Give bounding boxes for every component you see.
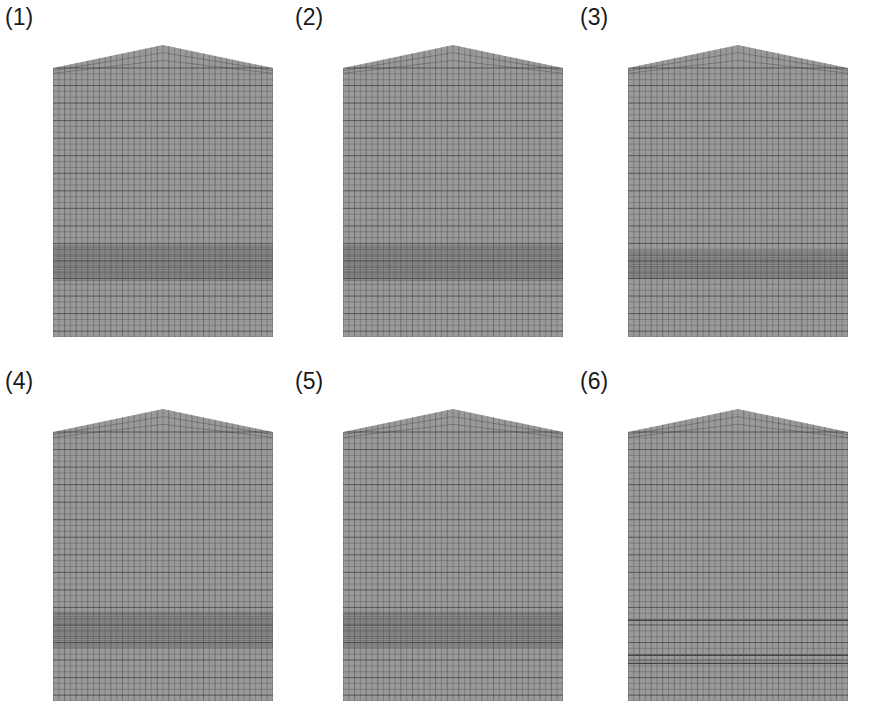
mesh-panel-3: (3) (580, 6, 870, 362)
mesh-panel-4: (4) (5, 370, 295, 713)
mesh-grid (580, 6, 870, 362)
mesh-grid (295, 6, 585, 362)
mesh-grid (580, 370, 870, 713)
mesh-panel-2: (2) (295, 6, 585, 362)
mesh-grid (295, 370, 585, 713)
mesh-panel-5: (5) (295, 370, 585, 713)
mesh-grid (5, 6, 295, 362)
mesh-panel-6: (6) (580, 370, 870, 713)
mesh-panel-1: (1) (5, 6, 295, 362)
mesh-grid (5, 370, 295, 713)
